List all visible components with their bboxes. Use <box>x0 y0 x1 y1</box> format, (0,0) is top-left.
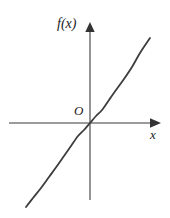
function-graph-figure: f(x) x O <box>0 0 170 218</box>
axes-group <box>9 22 161 200</box>
x-axis-label: x <box>150 128 156 141</box>
y-axis-arrowhead <box>85 22 94 32</box>
y-axis-label: f(x) <box>57 17 76 31</box>
graph-canvas <box>0 0 170 218</box>
origin-label: O <box>74 104 83 117</box>
